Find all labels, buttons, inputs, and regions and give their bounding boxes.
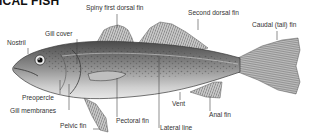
label-vent: Vent (172, 101, 185, 108)
caudal-fin-shape (238, 38, 300, 94)
label-pectoral-fin: Pectoral fin (116, 118, 149, 125)
label-anal-fin: Anal fin (209, 112, 231, 119)
label-gill-cover: Gill cover (45, 31, 72, 38)
label-preopercle: Preopercle (22, 95, 54, 102)
label-caudal-fin: Caudal (tail) fin (252, 22, 296, 29)
label-pelvic-fin: Pelvic fin (60, 123, 86, 130)
pelvic-fin-shape (84, 98, 108, 132)
label-lateral-line: Lateral line (160, 125, 192, 132)
label-gill-membranes: Gill membranes (10, 108, 56, 115)
label-spiny-first-dorsal-fin: Spiny first dorsal fin (86, 5, 144, 12)
label-nostril: Nostril (7, 40, 26, 47)
label-second-dorsal-fin: Second dorsal fin (188, 10, 239, 17)
